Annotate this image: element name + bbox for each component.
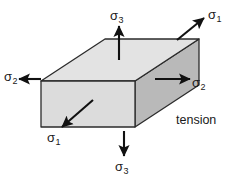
- sigma1-top-right-subscript: 1: [216, 14, 221, 24]
- sigma3-bottom-symbol: σ: [115, 159, 123, 174]
- sigma1-bottom-left-symbol: σ: [47, 130, 55, 145]
- stress-block-figure: σ3 σ1 σ2 σ2 σ1 σ3 tension: [0, 0, 236, 182]
- label-sigma3-top: σ3: [110, 9, 123, 25]
- sigma1-top-right-arrow: [177, 18, 204, 40]
- sigma1-top-right-symbol: σ: [208, 7, 216, 22]
- sigma2-left-subscript: 2: [12, 76, 17, 86]
- label-sigma1-top-right: σ1: [208, 8, 221, 24]
- tension-caption: tension: [176, 114, 216, 127]
- label-sigma1-bottom-left: σ1: [47, 131, 60, 147]
- label-sigma2-left: σ2: [4, 70, 17, 86]
- label-sigma2-right: σ2: [192, 76, 205, 92]
- sigma3-top-symbol: σ: [110, 8, 118, 23]
- sigma2-right-symbol: σ: [192, 75, 200, 90]
- sigma1-bottom-left-subscript: 1: [55, 137, 60, 147]
- sigma2-left-symbol: σ: [4, 69, 12, 84]
- sigma2-right-subscript: 2: [200, 82, 205, 92]
- sigma3-bottom-subscript: 3: [123, 166, 128, 176]
- label-sigma3-bottom: σ3: [115, 160, 128, 176]
- sigma3-top-subscript: 3: [118, 15, 123, 25]
